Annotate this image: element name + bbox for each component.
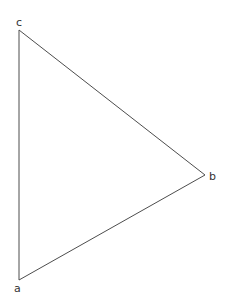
vertex-label-b: b bbox=[209, 171, 216, 182]
vertex-label-c: c bbox=[16, 17, 22, 28]
triangle-shape bbox=[0, 0, 236, 307]
vertex-label-a: a bbox=[14, 283, 21, 294]
figure-canvas: c b a bbox=[0, 0, 236, 307]
triangle-polygon bbox=[19, 30, 205, 280]
